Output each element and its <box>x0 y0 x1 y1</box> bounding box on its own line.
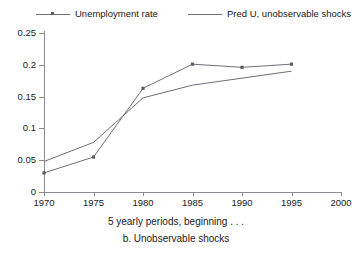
series-data-point <box>141 87 144 90</box>
chart-figure: Unemployment rate Pred U, unobservable s… <box>0 0 352 255</box>
x-axis-caption: 5 yearly periods, beginning . . . <box>0 216 352 228</box>
series-data-point <box>191 63 194 66</box>
series-data-point <box>92 155 95 158</box>
series-data-point <box>42 171 45 174</box>
series-data-point <box>290 63 293 66</box>
series-line <box>44 71 292 161</box>
series-line <box>44 64 292 173</box>
figure-subcaption: b. Unobservable shocks <box>0 233 352 245</box>
series-data-point <box>240 66 243 69</box>
